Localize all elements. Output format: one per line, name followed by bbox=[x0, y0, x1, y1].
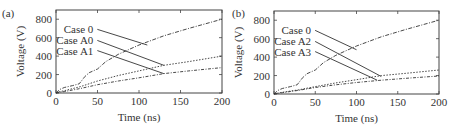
panel-label: (b) bbox=[232, 7, 245, 20]
series-line-case-a1 bbox=[56, 68, 222, 93]
x-tick-label: 150 bbox=[390, 96, 407, 108]
y-tick-label: 0 bbox=[265, 88, 271, 100]
figure: (a)0501001502000200400600800Time (ns)Vol… bbox=[0, 0, 463, 130]
x-tick-label: 100 bbox=[131, 95, 148, 107]
leader-line bbox=[97, 40, 164, 65]
chart-panel-b: (b)0501001502000200400600800Time (ns)Vol… bbox=[232, 7, 448, 125]
leader-line bbox=[97, 51, 164, 74]
x-axis-label: Time (ns) bbox=[335, 112, 378, 125]
leader-line bbox=[97, 29, 147, 45]
legend-label: Case A1 bbox=[56, 45, 93, 57]
y-tick-label: 800 bbox=[36, 13, 53, 25]
y-tick-label: 200 bbox=[36, 69, 53, 81]
x-tick-label: 50 bbox=[92, 95, 104, 107]
series-line-case-a0 bbox=[56, 56, 222, 93]
x-tick-label: 100 bbox=[348, 96, 365, 108]
x-tick-label: 0 bbox=[271, 96, 277, 108]
panel-label: (a) bbox=[2, 7, 15, 20]
y-tick-label: 0 bbox=[47, 87, 53, 99]
x-tick-label: 150 bbox=[172, 95, 189, 107]
y-tick-label: 200 bbox=[254, 70, 271, 82]
leader-line bbox=[315, 52, 377, 81]
y-tick-label: 400 bbox=[36, 50, 53, 62]
x-tick-label: 200 bbox=[431, 96, 448, 108]
y-tick-label: 600 bbox=[254, 33, 271, 45]
y-axis-label: Voltage (V) bbox=[232, 26, 245, 78]
x-axis-label: Time (ns) bbox=[118, 111, 161, 124]
legend-label: Case A3 bbox=[274, 46, 311, 58]
x-tick-label: 0 bbox=[53, 95, 59, 107]
x-tick-label: 200 bbox=[214, 95, 231, 107]
y-tick-label: 600 bbox=[36, 32, 53, 44]
y-tick-label: 800 bbox=[254, 14, 271, 26]
y-tick-label: 400 bbox=[254, 51, 271, 63]
series-line-case-a2 bbox=[274, 70, 439, 94]
chart-panel-a: (a)0501001502000200400600800Time (ns)Vol… bbox=[2, 7, 231, 124]
leader-line bbox=[315, 30, 356, 49]
leader-line bbox=[315, 41, 381, 76]
x-tick-label: 50 bbox=[310, 96, 322, 108]
y-axis-label: Voltage (V) bbox=[14, 25, 27, 77]
